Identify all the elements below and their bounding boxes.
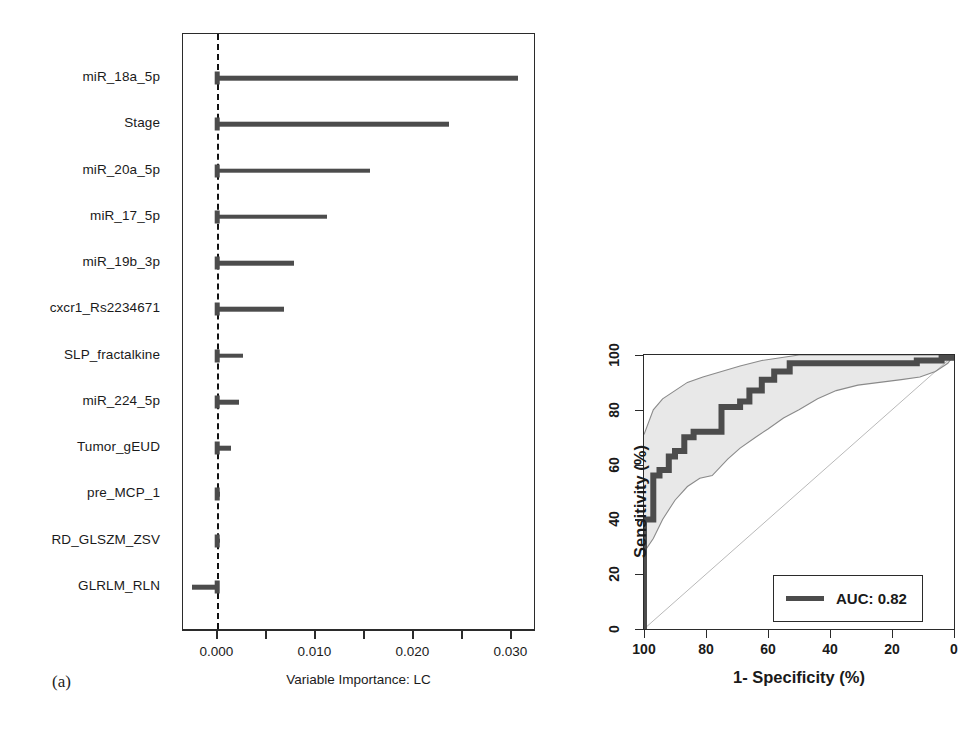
bar-origin-cap (215, 349, 220, 362)
x-axis-tick (314, 630, 315, 639)
variable-label: miR_224_5p (82, 394, 160, 408)
variable-importance-bar (217, 400, 239, 405)
roc-y-tick-label: 20 (606, 566, 622, 582)
bar-origin-cap (215, 442, 220, 455)
roc-x-tick-label: 60 (760, 641, 776, 657)
variable-label: miR_19b_3p (82, 255, 160, 269)
variable-label: miR_20a_5p (82, 163, 160, 177)
roc-legend: AUC: 0.82 (773, 575, 923, 622)
bar-origin-cap (215, 303, 220, 316)
bar-origin-cap (215, 581, 220, 594)
roc-x-tick (830, 630, 831, 638)
variable-importance-plot-frame (182, 33, 535, 630)
bar-origin-cap (215, 164, 220, 177)
x-axis-tick (363, 630, 364, 639)
variable-importance-bar (192, 585, 217, 590)
variable-label-column: miR_18a_5pStagemiR_20a_5pmiR_17_5pmiR_19… (0, 33, 172, 630)
bar-origin-cap (215, 395, 220, 408)
roc-x-tick-label: 0 (950, 641, 958, 657)
roc-y-tick (635, 410, 643, 411)
roc-y-tick-label: 0 (606, 625, 622, 633)
x-axis-tick (216, 630, 217, 639)
legend-line-swatch (786, 596, 824, 601)
roc-y-tick-label: 80 (606, 402, 622, 418)
variable-label: cxcr1_Rs2234671 (50, 302, 160, 316)
bar-origin-cap (215, 118, 220, 131)
roc-y-tick (635, 519, 643, 520)
variable-label: Tumor_gEUD (77, 440, 160, 454)
variable-label: miR_18a_5p (82, 70, 160, 84)
roc-x-tick-label: 100 (632, 641, 655, 657)
panel-b-roc-curve: 1- Specificity (%) Sensitivity (%) AUC: … (570, 0, 974, 750)
variable-importance-x-axis: 0.0000.0100.0200.030 (182, 630, 535, 631)
roc-x-tick-label: 20 (884, 641, 900, 657)
roc-x-tick (706, 630, 707, 638)
x-axis-title: Variable Importance: LC (182, 672, 535, 687)
x-axis-tick (510, 630, 511, 639)
variable-label: SLP_fractalkine (64, 348, 160, 362)
variable-label: Stage (124, 116, 160, 130)
x-axis-tick-label: 0.020 (396, 644, 430, 659)
roc-y-tick-label: 60 (606, 457, 622, 473)
x-axis-tick-label: 0.010 (297, 644, 331, 659)
variable-label: GLRLM_RLN (78, 579, 160, 593)
bar-origin-cap (215, 71, 220, 84)
panel-a-variable-importance: miR_18a_5pStagemiR_20a_5pmiR_17_5pmiR_19… (0, 0, 570, 750)
variable-importance-bar (217, 261, 293, 266)
variable-importance-bar (217, 168, 370, 173)
variable-importance-bar (217, 76, 518, 81)
bar-origin-cap (215, 257, 220, 270)
roc-y-tick (635, 629, 643, 630)
roc-y-axis-label: Sensitivity (%) (631, 362, 650, 642)
roc-x-tick-label: 40 (822, 641, 838, 657)
variable-label: RD_GLSZM_ZSV (52, 533, 160, 547)
legend-auc-label: AUC: 0.82 (836, 590, 907, 607)
x-axis-tick (461, 630, 462, 639)
x-axis-tick (412, 630, 413, 639)
roc-x-tick (768, 630, 769, 638)
variable-importance-bar (217, 215, 327, 220)
roc-x-tick (644, 630, 645, 638)
roc-y-tick-label: 100 (606, 343, 622, 366)
roc-y-tick (635, 574, 643, 575)
variable-label: miR_17_5p (90, 209, 160, 223)
roc-x-tick-label: 80 (698, 641, 714, 657)
roc-x-axis-label: 1- Specificity (%) (643, 668, 955, 687)
x-axis-tick (265, 630, 266, 639)
variable-label: pre_MCP_1 (87, 487, 160, 501)
bar-origin-cap (215, 210, 220, 223)
x-axis-line (182, 630, 535, 631)
x-axis-tick-label: 0.030 (494, 644, 528, 659)
variable-importance-bar (217, 353, 242, 358)
roc-x-tick (954, 630, 955, 638)
bar-origin-cap (215, 488, 220, 501)
x-axis-tick-label: 0.000 (199, 644, 233, 659)
bar-origin-cap (215, 534, 220, 547)
roc-x-tick (892, 630, 893, 638)
roc-y-tick (635, 355, 643, 356)
roc-y-tick (635, 465, 643, 466)
variable-importance-bar (217, 307, 284, 312)
panel-letter-a: (a) (52, 672, 71, 692)
confidence-band-fill (644, 355, 954, 552)
roc-y-tick-label: 40 (606, 512, 622, 528)
variable-importance-bar (217, 122, 448, 127)
